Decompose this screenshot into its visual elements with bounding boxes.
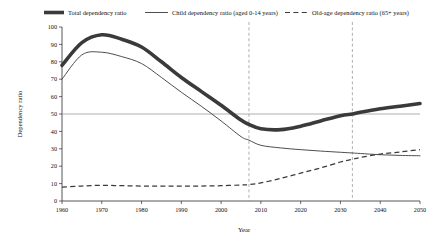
legend-label-total: Total dependency ratio (68, 9, 126, 16)
y-tick-label: 100 (48, 23, 57, 30)
dependency-ratio-chart: Total dependency ratio Child dependency … (0, 0, 428, 240)
x-tick-label: 2050 (414, 206, 426, 213)
y-tick-label: 80 (51, 58, 57, 65)
x-axis-title: Year (238, 226, 251, 233)
chart-series (62, 35, 420, 187)
x-tick-label: 1960 (56, 206, 68, 213)
x-tick-label: 1990 (175, 206, 187, 213)
x-tick-label: 2020 (294, 206, 306, 213)
x-tick-label: 1970 (96, 206, 108, 213)
legend-item-child: Child dependency ratio (aged 0-14 years) (145, 9, 278, 17)
y-tick-label: 90 (51, 41, 57, 48)
y-tick-label: 70 (51, 75, 57, 82)
x-tick-label: 2040 (374, 206, 386, 213)
y-tick-label: 50 (51, 110, 57, 117)
x-tick-label: 1980 (135, 206, 147, 213)
chart-canvas: Total dependency ratio Child dependency … (0, 0, 428, 240)
y-axis-title: Dependency ratio (16, 90, 23, 137)
y-tick-label: 10 (51, 180, 57, 187)
y-tick-label: 40 (51, 128, 57, 135)
y-tick-label: 20 (51, 162, 57, 169)
chart-legend: Total dependency ratio Child dependency … (44, 9, 409, 17)
x-tick-label: 2010 (255, 206, 267, 213)
y-tick-label: 0 (54, 197, 57, 204)
legend-item-total: Total dependency ratio (44, 9, 126, 16)
legend-label-oldage: Old-age dependency ratio (65+ years) (312, 9, 409, 17)
x-tick-label: 2000 (215, 206, 227, 213)
series-line-oldage (62, 150, 420, 187)
series-line-total (62, 35, 420, 130)
y-tick-label: 30 (51, 145, 57, 152)
x-tick-label: 2030 (334, 206, 346, 213)
series-line-child (62, 52, 420, 156)
y-tick-label: 60 (51, 93, 57, 100)
legend-item-oldage: Old-age dependency ratio (65+ years) (285, 9, 409, 17)
legend-label-child: Child dependency ratio (aged 0-14 years) (172, 9, 278, 17)
